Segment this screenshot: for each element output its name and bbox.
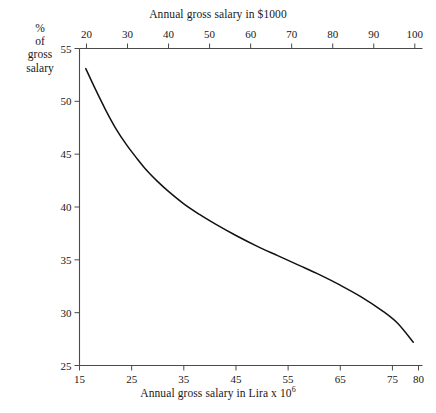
y-tick-label: 40 <box>52 201 72 213</box>
chart-figure: Annual gross salary in $1000 % of gross … <box>0 0 436 413</box>
x-tick-label: 60 <box>245 28 256 40</box>
data-series-curve <box>86 69 414 343</box>
y-tick-label: 55 <box>52 43 72 55</box>
axis-lines <box>80 49 423 366</box>
x-tick-label: 20 <box>81 28 92 40</box>
x-tick-label: 75 <box>387 373 398 385</box>
x-tick-label: 90 <box>368 28 379 40</box>
x-tick-label: 100 <box>407 28 424 40</box>
y-tick-label: 25 <box>52 360 72 372</box>
x-tick-label: 25 <box>126 373 137 385</box>
y-tick-label: 30 <box>52 307 72 319</box>
x-tick-label: 50 <box>204 28 215 40</box>
x-tick-label: 35 <box>178 373 189 385</box>
y-tick-label: 35 <box>52 254 72 266</box>
y-tick-label: 50 <box>52 95 72 107</box>
top-axis-ticks <box>86 44 414 49</box>
x-tick-label: 45 <box>230 373 241 385</box>
y-axis-ticks <box>75 49 80 366</box>
bottom-axis-ticks <box>80 366 419 371</box>
x-tick-label: 15 <box>74 373 85 385</box>
x-tick-label: 40 <box>163 28 174 40</box>
x-tick-label: 70 <box>286 28 297 40</box>
x-tick-label: 80 <box>413 373 424 385</box>
x-tick-label: 55 <box>283 373 294 385</box>
y-tick-label: 45 <box>52 148 72 160</box>
x-tick-label: 65 <box>335 373 346 385</box>
x-tick-label: 30 <box>122 28 133 40</box>
x-tick-label: 80 <box>327 28 338 40</box>
